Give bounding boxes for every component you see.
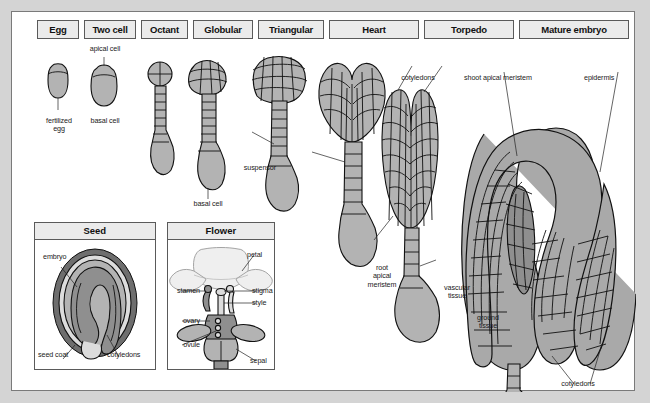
- label-flower-style: style: [252, 299, 266, 307]
- figure-root: Egg Two cell Octant Globular Triangular …: [0, 0, 650, 403]
- seed-panel-title: Seed: [34, 222, 156, 240]
- embryo-stage-globular-drawing: [189, 60, 227, 199]
- stage-box-globular: Globular: [193, 20, 253, 39]
- label-cotyledons-mature: cotyledons: [542, 380, 614, 388]
- flower-panel-title: Flower: [167, 222, 275, 240]
- stage-label-egg: Egg: [49, 24, 66, 35]
- label-flower-stamen: stamen: [150, 287, 200, 295]
- stage-label-torpedo: Torpedo: [451, 24, 487, 35]
- label-basal-cell: basal cell: [74, 117, 136, 125]
- label-cotyledons-torpedo: cotyledons: [387, 74, 449, 82]
- stage-label-octant: Octant: [150, 24, 179, 35]
- stage-label-two-cell: Two cell: [92, 24, 127, 35]
- label-flower-stigma: stigma: [252, 287, 273, 295]
- label-apical-cell: apical cell: [74, 45, 136, 53]
- stage-label-mature-embryo: Mature embryo: [541, 24, 607, 35]
- stage-header-row: Egg Two cell Octant Globular Triangular …: [12, 12, 636, 44]
- label-flower-ovary: ovary: [150, 317, 200, 325]
- seed-panel: Seed embryo seed coat cotyledon: [34, 222, 156, 370]
- stage-label-heart: Heart: [362, 24, 385, 35]
- label-shoot-apical-meristem: shoot apical meristem: [464, 74, 532, 82]
- label-ground-tissue: ground tissue: [464, 314, 512, 331]
- label-suspensor: suspensor: [208, 164, 276, 172]
- stage-box-octant: Octant: [141, 20, 188, 39]
- embryo-stage-octant-drawing: [148, 62, 174, 175]
- stage-label-globular: Globular: [204, 24, 241, 35]
- flower-panel: Flower: [167, 222, 275, 370]
- embryo-stage-egg-drawing: [48, 64, 68, 110]
- stage-box-heart: Heart: [329, 20, 419, 39]
- label-flower-sepal: sepal: [250, 357, 267, 365]
- label-root-apical-meristem: root apical meristem: [354, 264, 410, 289]
- label-seed-embryo: embryo: [43, 253, 66, 261]
- figure-panel: Egg Two cell Octant Globular Triangular …: [11, 11, 635, 391]
- label-seed-coat: seed coat: [38, 351, 68, 359]
- stage-box-torpedo: Torpedo: [424, 20, 514, 39]
- stage-box-egg: Egg: [37, 20, 79, 39]
- label-vascular-tissue: vascular tissue: [432, 284, 482, 301]
- stage-box-mature-embryo: Mature embryo: [519, 20, 629, 39]
- label-epidermis: epidermis: [584, 74, 614, 82]
- stage-box-triangular: Triangular: [258, 20, 324, 39]
- embryo-stage-heart-drawing: [312, 63, 385, 266]
- embryo-stage-two-cell-drawing: [91, 57, 117, 106]
- embryo-stage-mature-drawing: [462, 72, 636, 392]
- label-flower-petal: petal: [247, 251, 262, 259]
- label-basal-cell-globular: basal cell: [174, 200, 242, 208]
- label-seed-cotyledons: cotyledons: [107, 351, 140, 359]
- stage-label-triangular: Triangular: [269, 24, 313, 35]
- label-flower-ovule: ovule: [150, 341, 200, 349]
- embryo-stage-triangular-drawing: [252, 56, 307, 211]
- stage-box-two-cell: Two cell: [84, 20, 136, 39]
